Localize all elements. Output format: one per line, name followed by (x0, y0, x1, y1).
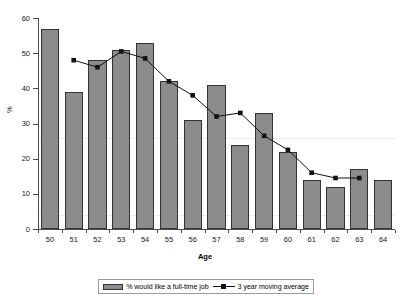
x-axis-tick-label: 57 (212, 236, 220, 244)
x-axis-tick (38, 230, 39, 233)
x-axis-tick (62, 230, 63, 233)
x-axis-tick (300, 230, 301, 233)
x-axis-tick-label: 53 (117, 236, 125, 244)
x-axis-tick-label: 54 (141, 236, 149, 244)
x-axis-tick-label: 61 (308, 236, 316, 244)
x-axis-tick-label: 58 (236, 236, 244, 244)
x-axis-tick (252, 230, 253, 233)
x-axis-tick (276, 230, 277, 233)
data-point-marker (95, 65, 100, 70)
legend-item-line: 3 year moving average (213, 283, 309, 290)
data-point-marker (333, 176, 338, 181)
x-axis-title: Age (0, 252, 410, 261)
x-axis-tick-label: 62 (331, 236, 339, 244)
y-axis-tick-label: 0 (26, 226, 30, 234)
y-axis-tick-label: 10 (22, 191, 30, 199)
legend-line-label: 3 year moving average (238, 283, 309, 290)
data-point-marker (167, 79, 172, 84)
x-axis-tick (133, 230, 134, 233)
y-axis-tick-label: 20 (22, 155, 30, 163)
x-axis-tick (324, 230, 325, 233)
x-axis-tick (228, 230, 229, 233)
chart-legend: % would like a full-time job 3 year movi… (98, 279, 314, 294)
data-point-marker (143, 56, 148, 61)
x-axis-tick-label: 59 (260, 236, 268, 244)
x-axis-line (38, 229, 395, 230)
legend-item-bar: % would like a full-time job (103, 283, 208, 290)
x-axis-tick (395, 230, 396, 233)
y-axis-tick-label: 40 (22, 85, 30, 93)
data-point-marker (119, 49, 124, 54)
data-point-marker (286, 148, 291, 153)
x-axis-tick-label: 51 (70, 236, 78, 244)
legend-line-marker-icon (213, 283, 235, 290)
x-axis-tick (86, 230, 87, 233)
x-axis-tick (371, 230, 372, 233)
x-axis-tick-label: 50 (46, 236, 54, 244)
x-axis-tick-label: 52 (93, 236, 101, 244)
x-axis-tick (157, 230, 158, 233)
legend-bar-swatch-icon (103, 284, 123, 290)
x-axis-tick (347, 230, 348, 233)
x-axis-tick (205, 230, 206, 233)
data-point-marker (214, 114, 219, 119)
moving-average-line-series (38, 18, 395, 229)
y-axis-tick-label: 50 (22, 50, 30, 58)
x-axis-tick-label: 56 (189, 236, 197, 244)
y-axis-tick-label: 60 (22, 15, 30, 23)
x-axis-tick (181, 230, 182, 233)
x-axis-tick-label: 64 (379, 236, 387, 244)
y-axis-tick-label: 30 (22, 120, 30, 128)
x-axis-tick-label: 60 (284, 236, 292, 244)
x-axis-tick-label: 63 (355, 236, 363, 244)
chart-container: 0102030405060 % 505152535455565758596061… (0, 0, 410, 307)
data-point-marker (238, 111, 243, 116)
data-point-marker (262, 134, 267, 139)
y-axis-title: % (6, 106, 14, 113)
data-point-marker (309, 170, 314, 175)
x-axis-tick (109, 230, 110, 233)
x-axis-tick-label: 55 (165, 236, 173, 244)
data-point-marker (71, 58, 76, 63)
data-point-marker (357, 176, 362, 181)
data-point-marker (190, 93, 195, 98)
legend-bar-label: % would like a full-time job (126, 283, 208, 290)
